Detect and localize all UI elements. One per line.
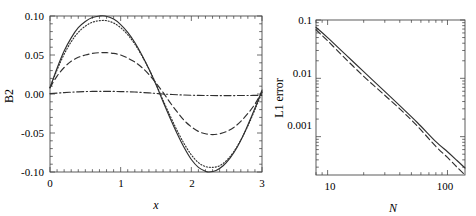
right-curve-dashed	[316, 30, 465, 175]
left-yaxis-title: B2	[2, 89, 16, 103]
right-ytick-label-0: 0.1	[298, 14, 312, 26]
right-xaxis-title: N	[388, 201, 398, 215]
right-plot-panel: 0.1 0.01 0.001 10 100 L1 error N	[268, 0, 476, 216]
left-xtick-label-3: 3	[259, 177, 265, 189]
left-curve-solid	[50, 16, 262, 172]
left-ytick-label-1: 0.05	[25, 49, 45, 61]
right-curve-solid	[316, 27, 465, 168]
right-plot-svg: 0.1 0.01 0.001 10 100 L1 error N	[268, 0, 476, 216]
left-ytick-label-2: 0.00	[25, 88, 45, 100]
left-xtick-label-2: 2	[189, 177, 195, 189]
right-yaxis-title: L1 error	[272, 78, 286, 118]
left-axis-ticks	[50, 16, 262, 172]
right-xtick-label-0: 10	[325, 180, 337, 192]
left-ytick-label-0: 0.10	[25, 10, 45, 22]
left-curve-dashed	[50, 53, 262, 135]
left-ytick-label-4: -0.10	[21, 166, 44, 178]
figure-container: 0.10 0.05 0.00 -0.05 -0.10 0 1 2 3 B2 x …	[0, 0, 476, 216]
left-xaxis-title: x	[152, 198, 159, 212]
left-curve-dash-dot	[50, 91, 262, 95]
left-ytick-label-3: -0.05	[21, 127, 44, 139]
left-plot-panel: 0.10 0.05 0.00 -0.05 -0.10 0 1 2 3 B2 x	[0, 0, 268, 216]
right-ytick-label-2: 0.001	[287, 119, 312, 131]
right-ytick-label-1: 0.01	[293, 67, 312, 79]
left-plot-frame	[50, 16, 262, 172]
right-xtick-label-1: 100	[437, 180, 454, 192]
left-plot-svg: 0.10 0.05 0.00 -0.05 -0.10 0 1 2 3 B2 x	[0, 0, 268, 216]
left-curve-group	[50, 16, 262, 172]
left-xtick-label-1: 1	[118, 177, 124, 189]
left-curve-dotted	[50, 20, 262, 167]
left-xtick-label-0: 0	[47, 177, 53, 189]
right-curve-group	[316, 27, 465, 175]
